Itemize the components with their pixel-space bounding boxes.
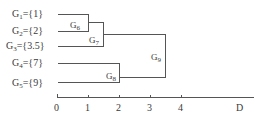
merge-g6-bracket [58, 15, 89, 32]
tick-label-4: 4 [178, 103, 183, 113]
tick-label-2: 2 [116, 103, 121, 113]
tick-label-1: 1 [85, 103, 90, 113]
merge-g8-bracket [58, 64, 120, 83]
tick-label-3: 3 [147, 103, 152, 113]
axis-label-d: D [236, 103, 243, 113]
merge-g9-bracket [104, 35, 166, 78]
tick-label-0: 0 [54, 103, 59, 113]
merge-g7-bracket [58, 23, 104, 47]
dendrogram-lines [0, 0, 268, 123]
